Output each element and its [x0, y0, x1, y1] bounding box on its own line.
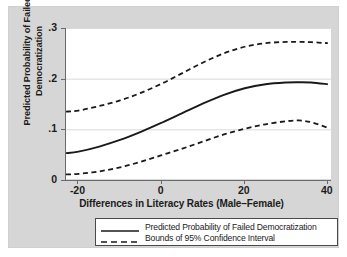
y-axis-title-line-1: Predicted Probability of Failed: [22, 0, 34, 151]
plot-area: [65, 28, 331, 180]
legend-key-dashed-icon: [100, 233, 140, 243]
legend-key-solid-icon: [100, 222, 140, 232]
x-tick-label: -20: [57, 184, 97, 196]
chart-legend: Predicted Probability of Failed Democrat…: [95, 218, 338, 246]
y-tick-label: .1: [35, 122, 57, 134]
x-tick-label: 20: [224, 184, 264, 196]
series-line-1: [66, 42, 328, 112]
graph-region: Predicted Probability of Failed Democrat…: [8, 6, 339, 248]
y-tick-label: .2: [35, 72, 57, 84]
y-tick-mark: [61, 28, 65, 29]
x-tick-label: 0: [141, 184, 181, 196]
y-tick-mark: [61, 129, 65, 130]
y-tick-label: 0: [35, 173, 57, 185]
chart-figure: Predicted Probability of Failed Democrat…: [0, 0, 347, 257]
series-line-0: [66, 82, 328, 153]
legend-label-0: Predicted Probability of Failed Democrat…: [145, 222, 317, 232]
x-axis-line: [65, 180, 331, 181]
plot-svg: [66, 28, 332, 180]
x-axis-title: Differences in Literacy Rates (Male–Fema…: [16, 198, 347, 209]
series-line-2: [66, 120, 328, 174]
legend-label-1: Bounds of 95% Confidence Interval: [145, 233, 275, 243]
y-tick-label: .3: [35, 21, 57, 33]
legend-item-confidence-interval: Bounds of 95% Confidence Interval: [100, 232, 335, 244]
x-tick-label: 40: [307, 184, 347, 196]
y-tick-mark: [61, 79, 65, 80]
